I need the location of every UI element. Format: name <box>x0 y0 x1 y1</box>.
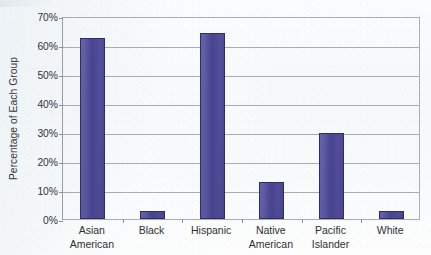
y-axis-tick-mark <box>59 163 63 164</box>
bar <box>379 211 404 219</box>
bar-slot <box>302 18 362 219</box>
x-axis-tick-label-line1: Hispanic <box>191 224 231 236</box>
y-axis-tick-label: 40% <box>24 99 58 110</box>
x-axis-tick-label: AsianAmerican <box>62 224 122 251</box>
x-axis-tick-label: NativeAmerican <box>241 224 301 251</box>
bar <box>259 182 284 219</box>
x-axis-tick-mark <box>361 219 362 223</box>
y-axis-title-text: Percentage of Each Group <box>8 57 19 180</box>
bar-slot <box>182 18 242 219</box>
x-axis-tick-label: Black <box>122 224 182 238</box>
y-axis-title: Percentage of Each Group <box>5 17 22 220</box>
bar-slot <box>242 18 302 219</box>
y-axis-tick-labels: 0%10%20%30%40%50%60%70% <box>24 17 58 220</box>
x-axis-tick-label: PacificIslander <box>301 224 361 251</box>
bar-slot <box>123 18 183 219</box>
bar <box>319 133 344 219</box>
y-axis-tick-mark <box>59 18 63 19</box>
bar-chart-figure: Percentage of Each Group 0%10%20%30%40%5… <box>0 0 431 255</box>
y-axis-tick-mark <box>59 76 63 77</box>
x-axis-tick-label-line1: Black <box>139 224 165 236</box>
y-axis-tick-label: 10% <box>24 186 58 197</box>
x-axis-tick-mark <box>302 219 303 223</box>
y-axis-tick-label: 60% <box>24 41 58 52</box>
x-axis-tick-mark <box>242 219 243 223</box>
x-axis-tick-label: White <box>360 224 420 238</box>
x-axis-tick-labels: AsianAmericanBlackHispanicNativeAmerican… <box>62 224 420 254</box>
y-axis-tick-mark <box>59 221 63 222</box>
x-axis-tick-label-line1: White <box>377 224 404 236</box>
bars-layer <box>63 18 419 219</box>
x-axis-tick-mark <box>123 219 124 223</box>
y-axis-tick-mark <box>59 134 63 135</box>
y-axis-tick-label: 50% <box>24 70 58 81</box>
x-axis-tick-label-line1: Pacific <box>315 224 346 236</box>
y-axis-tick-mark <box>59 47 63 48</box>
x-axis-tick-label-line2: American <box>62 238 122 252</box>
x-axis-tick-label-line2: Islander <box>301 238 361 252</box>
y-axis-tick-label: 0% <box>24 215 58 226</box>
x-axis-tick-label-line1: Asian <box>79 224 105 236</box>
bar <box>200 33 225 219</box>
x-axis-tick-label: Hispanic <box>181 224 241 238</box>
bar-slot <box>63 18 123 219</box>
y-axis-tick-mark <box>59 192 63 193</box>
bar-slot <box>361 18 421 219</box>
plot-area <box>62 17 420 220</box>
bar <box>140 211 165 219</box>
bar <box>80 38 105 219</box>
x-axis-tick-mark <box>182 219 183 223</box>
y-axis-tick-label: 70% <box>24 12 58 23</box>
y-axis-tick-label: 20% <box>24 157 58 168</box>
y-axis-tick-label: 30% <box>24 128 58 139</box>
y-axis-tick-mark <box>59 105 63 106</box>
x-axis-tick-label-line2: American <box>241 238 301 252</box>
x-axis-tick-label-line1: Native <box>256 224 286 236</box>
